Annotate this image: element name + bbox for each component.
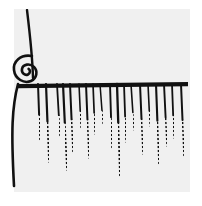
bristle-strand-tail [111,117,112,148]
bristle-strand [124,84,125,116]
panel-left-clip [0,0,5,206]
bristle-strand-tail [80,111,81,128]
bristle-strand [117,84,118,123]
panel-top-clip [0,0,202,9]
bristle-strand [38,84,39,115]
panel-right-clip [190,0,202,206]
panel-bottom-clip [0,192,202,206]
bristle-strand-tail [39,115,40,140]
bristle-strand-tail [94,113,95,134]
bristle-strand [172,84,173,115]
bristle-strand [93,84,94,113]
bristle-strand [156,84,157,121]
bristle-strand-tail [173,115,174,138]
line-drawing-figure [0,0,202,206]
bristle-strand [46,84,47,121]
bristle-strand-tail [149,111,150,126]
figure-root [0,0,202,206]
bristle-strand-tail [125,116,126,142]
drawing-panel-background [14,9,190,192]
bristle-strand [110,84,111,117]
